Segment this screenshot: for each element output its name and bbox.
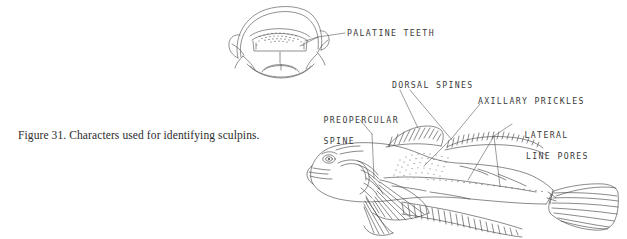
label-axillary-prickles: AXILLARY PRICKLES (478, 96, 585, 107)
label-dorsal-spines: DORSAL SPINES (392, 80, 474, 91)
label-preopercular-spine: PREOPERCULAR SPINE (311, 104, 399, 146)
label-lateral-line-pores-line2: LINE PORES (512, 151, 589, 162)
figure-caption: Figure 31. Characters used for identifyi… (18, 129, 288, 141)
label-lateral-line-pores: LATERAL LINE PORES (512, 119, 589, 172)
axillary-prickles-patch (394, 153, 449, 180)
label-palatine-teeth: PALATINE TEETH (347, 28, 435, 39)
label-preopercular-spine-line1: PREOPERCULAR (324, 115, 399, 125)
label-preopercular-spine-line2: SPINE (324, 136, 355, 146)
mouth-frontal-view (229, 7, 329, 78)
label-lateral-line-pores-line1: LATERAL (525, 130, 569, 140)
